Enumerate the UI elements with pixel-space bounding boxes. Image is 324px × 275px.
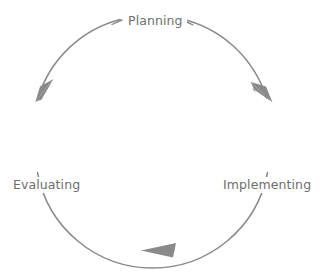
cycle-diagram-canvas: Planning Implementing Evaluating	[0, 0, 324, 275]
cycle-diagram-graphic	[0, 0, 324, 275]
cycle-node-label-implementing: Implementing	[219, 177, 315, 193]
cycle-node-label-evaluating: Evaluating	[9, 177, 84, 193]
cycle-node-label-planning: Planning	[124, 13, 187, 29]
arc-evaluating-to-planning	[38, 20, 120, 99]
